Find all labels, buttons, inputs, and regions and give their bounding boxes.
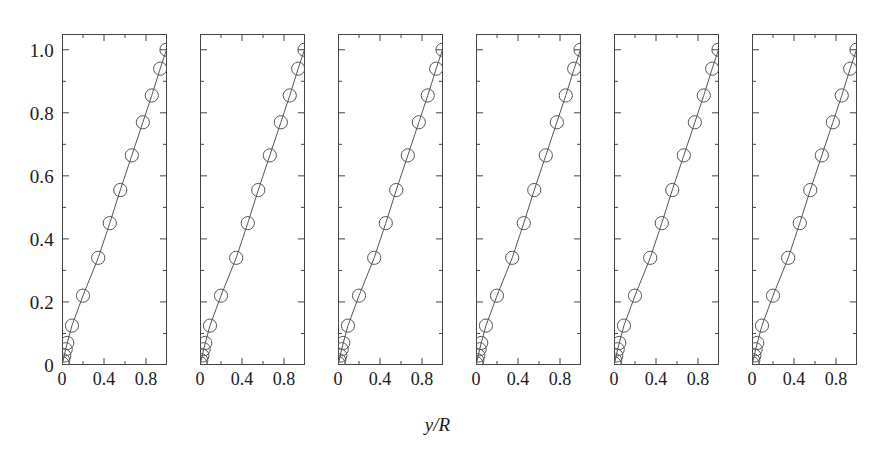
x-axis-ticklabel: 0 [610, 370, 619, 388]
x-axis-ticklabel: 0.8 [825, 370, 848, 388]
x-axis-ticklabel: 0.4 [93, 370, 116, 388]
y-axis-ticklabels: 00.20.40.60.81.0 [0, 0, 58, 472]
panel-2-axes [200, 34, 305, 365]
plot-frame [477, 35, 581, 365]
panel-1-axes [62, 34, 167, 365]
data-series-line [477, 50, 581, 364]
x-axis-ticklabel: 0.8 [549, 370, 572, 388]
y-axis-ticklabel: 0.4 [30, 230, 54, 249]
panel-3-axes [338, 34, 443, 365]
panel-3: 00.40.8 [338, 34, 443, 365]
x-axis-ticklabels: 00.40.8 [338, 370, 488, 394]
data-series-line [201, 50, 305, 364]
x-axis-ticklabels: 00.40.8 [476, 370, 626, 394]
data-series-line [753, 50, 857, 364]
y-axis-ticklabel: 1.0 [30, 41, 54, 60]
x-axis-ticklabel: 0.8 [273, 370, 296, 388]
x-axis-ticklabel: 0 [58, 370, 67, 388]
panel-5: 00.40.8 [614, 34, 719, 365]
x-axis-ticklabel: 0 [748, 370, 757, 388]
x-axis-ticklabel: 0.4 [231, 370, 254, 388]
x-axis-ticklabel: 0.8 [687, 370, 710, 388]
panel-6: 00.40.8 [752, 34, 857, 365]
x-axis-ticklabel: 0.8 [135, 370, 158, 388]
plot-frame [615, 35, 719, 365]
panel-6-axes [752, 34, 857, 365]
panel-5-axes [614, 34, 719, 365]
x-axis-ticklabel: 0.4 [369, 370, 392, 388]
x-axis-ticklabel: 0.4 [507, 370, 530, 388]
y-axis-ticklabel: 0 [44, 356, 54, 375]
x-axis-ticklabels: 00.40.8 [62, 370, 212, 394]
x-axis-ticklabel: 0.4 [783, 370, 806, 388]
x-axis-ticklabel: 0.8 [411, 370, 434, 388]
plot-frame [339, 35, 443, 365]
figure-small-multiples-panels: 00.20.40.60.81.0 y/R 00.40.800.40.800.40… [0, 0, 875, 472]
plot-frame [753, 35, 857, 365]
panel-1: 00.40.8 [62, 34, 167, 365]
panel-4: 00.40.8 [476, 34, 581, 365]
y-axis-ticklabel: 0.2 [30, 293, 54, 312]
x-axis-ticklabels: 00.40.8 [200, 370, 350, 394]
data-series-line [615, 50, 719, 364]
x-axis-title: y/R [0, 414, 875, 436]
x-axis-ticklabel: 0.4 [645, 370, 668, 388]
x-axis-ticklabels: 00.40.8 [752, 370, 875, 394]
x-axis-ticklabel: 0 [472, 370, 481, 388]
plot-frame [201, 35, 305, 365]
data-series-line [63, 50, 167, 364]
plot-frame [63, 35, 167, 365]
panel-4-axes [476, 34, 581, 365]
x-axis-ticklabel: 0 [196, 370, 205, 388]
data-series-line [339, 50, 443, 364]
x-axis-ticklabel: 0 [334, 370, 343, 388]
x-axis-ticklabels: 00.40.8 [614, 370, 764, 394]
panel-2: 00.40.8 [200, 34, 305, 365]
y-axis-ticklabel: 0.6 [30, 167, 54, 186]
y-axis-ticklabel: 0.8 [30, 104, 54, 123]
